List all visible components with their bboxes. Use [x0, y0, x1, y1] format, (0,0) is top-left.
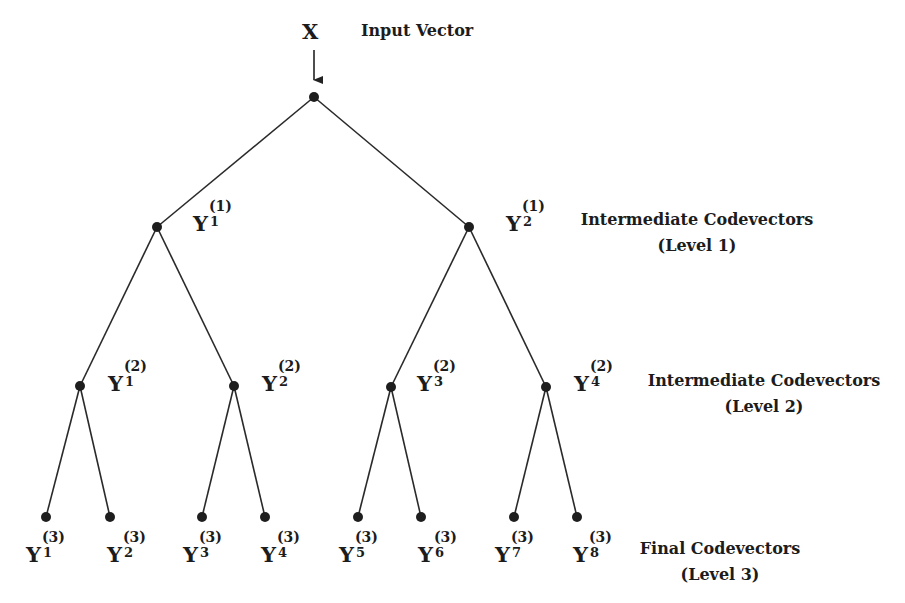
codevector-label-l1-1: Y(1)1 — [193, 211, 236, 234]
edge-l1-2-l2-4 — [469, 227, 546, 387]
node-l3-8 — [572, 512, 582, 522]
edge-l2-1-l3-1 — [46, 386, 80, 517]
edge-l2-4-l3-7 — [514, 387, 546, 517]
edge-root-l1-2 — [314, 97, 469, 227]
codevector-label-l2-3: Y(2)3 — [417, 371, 460, 394]
edge-l2-1-l3-2 — [80, 386, 110, 517]
node-l2-3 — [386, 382, 396, 392]
codevector-label-l3-2: Y(3)2 — [107, 542, 150, 565]
codevector-label-l3-6: Y(3)6 — [418, 542, 461, 565]
node-l3-6 — [416, 512, 426, 522]
level-1-title: Intermediate Codevectors — [574, 207, 820, 233]
codevector-label-l2-1: Y(2)1 — [108, 371, 151, 394]
codevector-label-l2-4: Y(2)4 — [574, 371, 617, 394]
codevector-label-l3-8: Y(3)8 — [573, 542, 616, 565]
edge-l2-2-l3-4 — [234, 386, 265, 517]
node-l3-2 — [105, 512, 115, 522]
level-3-subtitle: (Level 3) — [630, 562, 810, 588]
edge-root-l1-1 — [157, 97, 314, 227]
node-l1-1 — [152, 222, 162, 232]
node-l2-4 — [541, 382, 551, 392]
node-l3-3 — [197, 512, 207, 522]
node-l3-1 — [41, 512, 51, 522]
edge-l1-2-l2-3 — [391, 227, 469, 387]
edge-l1-1-l2-2 — [157, 227, 234, 386]
node-l1-2 — [464, 222, 474, 232]
node-l2-2 — [229, 381, 239, 391]
node-l3-5 — [353, 512, 363, 522]
codevector-label-l3-4: Y(3)4 — [261, 542, 304, 565]
codevector-label-l2-2: Y(2)2 — [262, 371, 305, 394]
codevector-label-l3-5: Y(3)5 — [339, 542, 382, 565]
input-label: Input Vector — [361, 18, 473, 44]
codevector-label-l3-3: Y(3)3 — [183, 542, 226, 565]
level-1-description: Intermediate Codevectors (Level 1) — [574, 207, 820, 259]
root-node — [309, 92, 319, 102]
level-2-description: Intermediate Codevectors (Level 2) — [641, 368, 887, 420]
edge-l2-2-l3-3 — [202, 386, 234, 517]
tree-diagram — [0, 0, 905, 603]
edge-l2-4-l3-8 — [546, 387, 577, 517]
codevector-label-l1-2: Y(1)2 — [506, 211, 549, 234]
level-3-description: Final Codevectors (Level 3) — [630, 536, 810, 588]
codevector-label-l3-7: Y(3)7 — [495, 542, 538, 565]
edge-l2-3-l3-5 — [358, 387, 391, 517]
level-2-subtitle: (Level 2) — [641, 394, 887, 420]
node-l3-4 — [260, 512, 270, 522]
edge-l2-3-l3-6 — [391, 387, 421, 517]
input-symbol: X — [302, 19, 318, 44]
codevector-label-l3-1: Y(3)1 — [26, 542, 69, 565]
node-l3-7 — [509, 512, 519, 522]
level-2-title: Intermediate Codevectors — [641, 368, 887, 394]
level-1-subtitle: (Level 1) — [574, 233, 820, 259]
node-l2-1 — [75, 381, 85, 391]
level-3-title: Final Codevectors — [630, 536, 810, 562]
